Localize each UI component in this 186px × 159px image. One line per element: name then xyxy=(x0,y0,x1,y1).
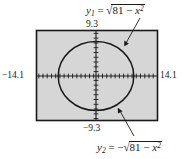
y1-exponent: 2 xyxy=(140,4,144,13)
y-max-label: 9.3 xyxy=(86,20,98,30)
y2-exponent: 2 xyxy=(157,141,161,150)
y2-radicand: 81 − x2 xyxy=(129,141,162,153)
radical-icon: √ xyxy=(124,142,130,154)
y2-subscript: 2 xyxy=(102,146,106,155)
equation-label-y2: y2 = −√81 − x2 xyxy=(97,141,162,155)
y1-radical-expression: √81 − x2 xyxy=(106,4,144,16)
y1-radicand: 81 − x2 xyxy=(111,4,144,16)
radical-icon: √ xyxy=(106,5,112,17)
y1-minus: − xyxy=(126,4,132,16)
y2-minus: − xyxy=(143,141,149,153)
y1-constant: 81 xyxy=(112,4,123,16)
x-max-label: 14.1 xyxy=(160,71,177,81)
x-min-label: −14.1 xyxy=(2,71,24,81)
graph-figure: y1 = √81 − x2 y2 = −√81 − x2 9.3 −9.3 −1… xyxy=(0,0,186,159)
y1-subscript: 1 xyxy=(91,9,95,18)
y-min-label: −9.3 xyxy=(83,124,100,134)
y2-constant: 81 xyxy=(130,141,141,153)
y2-equals: = xyxy=(108,141,114,153)
y2-radical-expression: √81 − x2 xyxy=(124,141,162,153)
equation-label-y1: y1 = √81 − x2 xyxy=(86,4,145,18)
y1-equals: = xyxy=(97,4,103,16)
